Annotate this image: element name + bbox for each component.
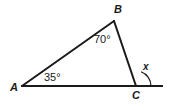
side-AB-segment bbox=[22, 21, 114, 86]
angle-measure-label-A: 35° bbox=[44, 72, 61, 83]
side-BC-segment bbox=[114, 21, 136, 86]
diagram-canvas: A B C 35° 70° x bbox=[0, 0, 171, 110]
exterior-angle-arc bbox=[141, 72, 151, 86]
angle-measure-label-B: 70° bbox=[94, 34, 111, 45]
vertex-label-C: C bbox=[132, 90, 140, 101]
exterior-angle-variable-label: x bbox=[143, 62, 149, 72]
vertex-label-B: B bbox=[114, 4, 122, 15]
geometry-figure bbox=[0, 0, 171, 110]
vertex-label-A: A bbox=[10, 82, 18, 93]
